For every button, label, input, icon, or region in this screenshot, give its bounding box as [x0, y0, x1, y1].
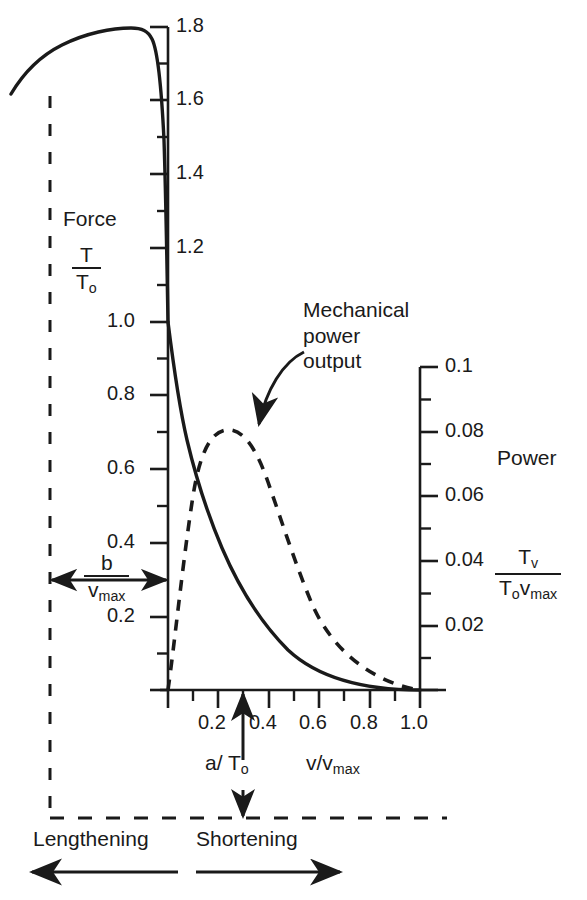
left-axis-unit-denominator: To — [72, 267, 101, 297]
right-axis-title: Power — [497, 447, 557, 469]
left-tick-label-0-8: 0.8 — [107, 383, 135, 404]
bottom-axis-minor-ticks — [193, 690, 395, 701]
power-annotation-line-3: output — [303, 348, 409, 374]
power-annotation-line-1: Mechanical — [303, 297, 409, 323]
power-annotation-line-2: power — [303, 323, 409, 349]
left-tick-label-1-8: 1.8 — [176, 15, 204, 36]
right-tick-label-0-08: 0.08 — [445, 420, 484, 441]
left-tick-label-1-2: 1.2 — [176, 236, 204, 257]
left-tick-label-0-6: 0.6 — [107, 457, 135, 478]
right-axis-minor-ticks — [420, 400, 431, 659]
bottom-tick-label-0-2: 0.2 — [198, 712, 226, 733]
b-over-vmax-numerator: b — [84, 551, 129, 575]
left-tick-label-1-4: 1.4 — [176, 162, 204, 183]
right-tick-label-0-1: 0.1 — [445, 355, 473, 376]
bottom-tick-label-0-8: 0.8 — [350, 712, 378, 733]
power-curve — [168, 430, 419, 690]
power-curve-annotation: Mechanical power output — [303, 297, 409, 374]
right-axis-unit-denominator: Tovmax — [495, 573, 561, 603]
bottom-axis-title: v/vmax — [306, 752, 360, 777]
right-tick-label-0-04: 0.04 — [445, 549, 484, 570]
left-axis-title: Force — [63, 208, 117, 230]
b-over-vmax-denominator: vmax — [84, 575, 129, 605]
a-over-To-label: a/ To — [205, 752, 249, 777]
right-tick-label-0-02: 0.02 — [445, 614, 484, 635]
right-tick-label-0-06: 0.06 — [445, 484, 484, 505]
bottom-tick-label-1-0: 1.0 — [400, 712, 428, 733]
force-velocity-figure: 1.8 1.6 1.4 1.2 1.0 0.8 0.6 0.4 0.2 Forc… — [0, 0, 587, 900]
bottom-tick-label-0-4: 0.4 — [249, 712, 277, 733]
left-axis-minor-ticks — [157, 64, 168, 654]
right-axis-unit-numerator: Tv — [495, 545, 561, 573]
left-tick-label-1-6: 1.6 — [176, 88, 204, 109]
b-over-vmax-fraction: b vmax — [84, 551, 129, 605]
left-axis-unit-fraction: T To — [72, 243, 101, 297]
bottom-tick-label-0-6: 0.6 — [299, 712, 327, 733]
left-tick-label-1-0: 1.0 — [107, 310, 135, 331]
left-tick-label-0-4: 0.4 — [107, 531, 135, 552]
left-tick-label-0-2: 0.2 — [107, 605, 135, 626]
power-label-pointer-arrow — [259, 352, 304, 424]
lengthening-label: Lengthening — [33, 828, 149, 850]
force-curve-shortening — [168, 322, 420, 690]
right-axis-unit-fraction: Tv Tovmax — [495, 545, 561, 602]
left-axis-unit-numerator: T — [72, 243, 101, 267]
shortening-label: Shortening — [196, 828, 298, 850]
